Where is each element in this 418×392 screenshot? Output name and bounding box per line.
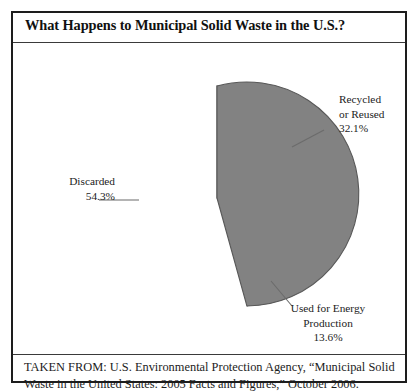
pie-label-energy-value: 13.6%: [253, 330, 403, 345]
pie-label-recycled-line1: Recycled: [339, 92, 385, 107]
pie-label-recycled-value: 32.1%: [339, 121, 385, 136]
pie-chart-plot-area: Recycled or Reused 32.1% Discarded 54.3%…: [13, 43, 405, 354]
pie-label-recycled-line2: or Reused: [339, 107, 385, 122]
pie-label-recycled: Recycled or Reused 32.1%: [339, 92, 385, 136]
pie-label-discarded-value: 54.3%: [21, 189, 115, 204]
figure-source-caption: TAKEN FROM: U.S. Environmental Protectio…: [24, 359, 402, 392]
pie-label-energy: Used for Energy Production 13.6%: [253, 301, 403, 345]
figure-caption-bar: TAKEN FROM: U.S. Environmental Protectio…: [13, 354, 405, 383]
pie-slice-discarded: [217, 82, 359, 306]
figure-container: What Happens to Municipal Solid Waste in…: [11, 11, 407, 383]
pie-label-energy-line2: Production: [253, 316, 403, 331]
pie-label-discarded-line1: Discarded: [21, 174, 115, 189]
page-title: What Happens to Municipal Solid Waste in…: [25, 17, 345, 34]
pie-label-energy-line1: Used for Energy: [253, 301, 403, 316]
pie-label-discarded: Discarded 54.3%: [21, 174, 115, 203]
figure-title-bar: What Happens to Municipal Solid Waste in…: [13, 13, 405, 43]
